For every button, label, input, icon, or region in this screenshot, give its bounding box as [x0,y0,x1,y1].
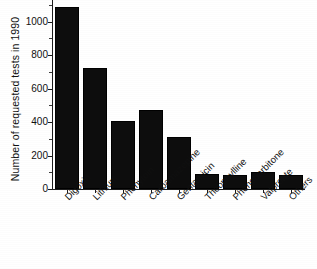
y-axis-tick-mark [48,122,52,123]
y-axis-minor-tick-mark [49,72,52,73]
y-axis-tick-label: 600 [14,84,48,94]
y-axis-minor-tick-mark [49,38,52,39]
bar [83,68,107,189]
y-axis-tick-label: 800 [14,50,48,60]
y-axis-tick-mark [48,189,52,190]
y-axis-tick-label: 400 [14,117,48,127]
y-axis-minor-tick-mark [49,172,52,173]
y-axis-tick-mark [48,156,52,157]
y-axis-tick-mark [48,22,52,23]
y-axis-tick-label: 1000 [14,17,48,27]
bar [55,7,79,189]
y-axis-minor-tick-mark [49,139,52,140]
bar-chart-figure: Number of requested tests in 1990 020040… [0,0,317,269]
y-axis-tick-labels: 02004006008001000 [14,0,48,195]
y-axis-minor-tick-mark [49,105,52,106]
y-axis-tick-mark [48,89,52,90]
y-axis-tick-label: 0 [14,184,48,194]
y-axis-minor-tick-mark [49,5,52,6]
y-axis-tick-label: 200 [14,151,48,161]
y-axis-tick-mark [48,55,52,56]
